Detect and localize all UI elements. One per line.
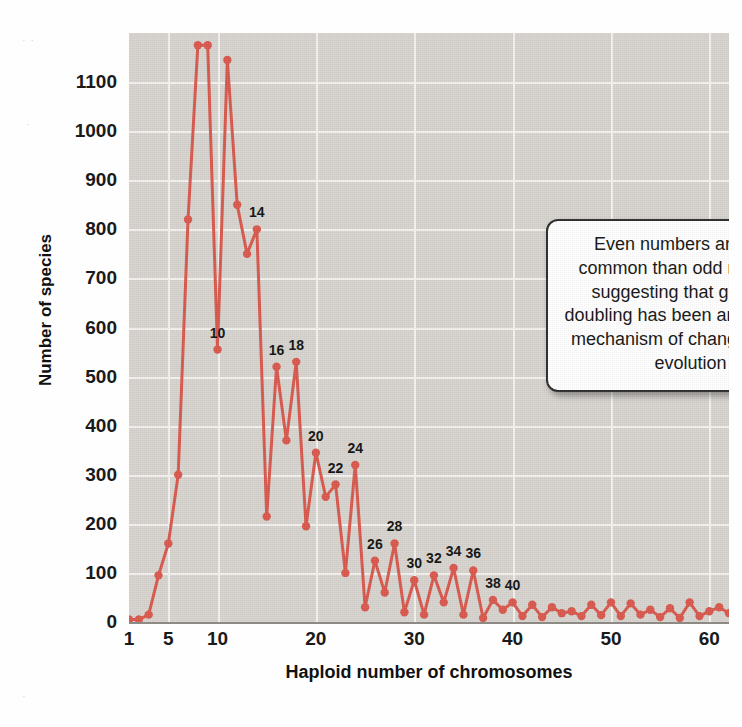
point-label-32: 32: [426, 550, 442, 566]
data-point: [410, 576, 418, 584]
data-point: [528, 601, 536, 609]
data-point: [174, 471, 182, 479]
data-point: [469, 566, 477, 574]
y-tick-1000: 1000: [51, 120, 117, 142]
data-point: [489, 596, 497, 604]
y-tick-900: 900: [51, 169, 117, 191]
x-tick-10: 10: [207, 628, 228, 650]
data-point: [656, 613, 664, 621]
y-tick-1100: 1100: [51, 71, 117, 93]
data-point: [459, 610, 467, 618]
y-tick-0: 0: [51, 611, 117, 633]
data-point: [263, 512, 271, 520]
x-axis-line: [129, 622, 729, 624]
point-label-36: 36: [465, 545, 481, 561]
point-label-8: 8: [194, 33, 202, 36]
data-point: [577, 612, 585, 620]
data-point: [617, 612, 625, 620]
x-axis-title: Haploid number of chromosomes: [129, 662, 729, 683]
point-label-20: 20: [308, 428, 324, 444]
point-label-26: 26: [367, 536, 383, 552]
data-point: [331, 480, 339, 488]
data-point: [646, 606, 654, 614]
y-tick-100: 100: [51, 562, 117, 584]
data-point: [685, 598, 693, 606]
data-point: [390, 539, 398, 547]
data-point: [626, 599, 634, 607]
data-point: [184, 215, 192, 223]
y-tick-500: 500: [51, 366, 117, 388]
data-point: [233, 201, 241, 209]
data-point: [243, 250, 251, 258]
point-label-22: 22: [328, 460, 344, 476]
point-label-28: 28: [387, 518, 403, 534]
data-point: [292, 358, 300, 366]
annotation-text: Even numbers are more common than odd nu…: [562, 233, 729, 376]
y-tick-200: 200: [51, 513, 117, 535]
plot-area: 8101416182022242628303234363840 Even num…: [129, 33, 729, 622]
data-point: [361, 603, 369, 611]
point-label-16: 16: [269, 342, 285, 358]
data-point: [567, 607, 575, 615]
data-point: [518, 612, 526, 620]
point-label-18: 18: [288, 337, 304, 353]
y-axis-title: Number of species: [36, 200, 56, 420]
data-point: [282, 436, 290, 444]
x-tick-50: 50: [600, 628, 621, 650]
data-point: [154, 571, 162, 579]
data-point: [449, 564, 457, 572]
annotation-callout: Even numbers are more common than odd nu…: [546, 219, 729, 392]
data-point: [381, 588, 389, 596]
data-point: [548, 603, 556, 611]
data-point: [499, 606, 507, 614]
x-tick-30: 30: [404, 628, 425, 650]
data-point: [636, 610, 644, 618]
data-point: [715, 603, 723, 611]
data-point: [400, 608, 408, 616]
data-point: [322, 493, 330, 501]
data-point: [676, 614, 684, 622]
data-point: [203, 41, 211, 49]
y-tick-600: 600: [51, 317, 117, 339]
data-point: [420, 610, 428, 618]
x-tick-20: 20: [305, 628, 326, 650]
y-tick-300: 300: [51, 464, 117, 486]
data-point: [164, 539, 172, 547]
data-point: [666, 604, 674, 612]
data-point: [597, 611, 605, 619]
data-point: [223, 56, 231, 64]
data-point: [213, 345, 221, 353]
data-point: [272, 363, 280, 371]
point-label-40: 40: [505, 577, 521, 593]
y-tick-700: 700: [51, 267, 117, 289]
data-point: [695, 612, 703, 620]
x-tick-5: 5: [163, 628, 174, 650]
data-point: [253, 225, 261, 233]
x-tick-40: 40: [502, 628, 523, 650]
chart-figure: 8101416182022242628303234363840 Even num…: [0, 0, 742, 727]
data-point: [312, 448, 320, 456]
data-point: [607, 598, 615, 606]
data-point: [430, 571, 438, 579]
data-point: [538, 613, 546, 621]
data-point: [194, 41, 202, 49]
data-point: [129, 615, 133, 622]
point-label-14: 14: [249, 204, 265, 220]
x-tick-60: 60: [699, 628, 720, 650]
point-label-38: 38: [485, 575, 501, 591]
data-point: [508, 598, 516, 606]
point-label-24: 24: [347, 440, 363, 456]
data-point: [371, 556, 379, 564]
point-label-30: 30: [406, 555, 422, 571]
data-point: [144, 610, 152, 618]
data-point: [705, 607, 713, 615]
data-point: [135, 615, 143, 622]
data-point: [479, 614, 487, 622]
x-tick-1: 1: [124, 628, 135, 650]
data-point: [587, 601, 595, 609]
y-tick-400: 400: [51, 415, 117, 437]
data-point: [341, 569, 349, 577]
point-label-10: 10: [210, 325, 226, 341]
data-point: [440, 598, 448, 606]
point-label-34: 34: [446, 543, 462, 559]
